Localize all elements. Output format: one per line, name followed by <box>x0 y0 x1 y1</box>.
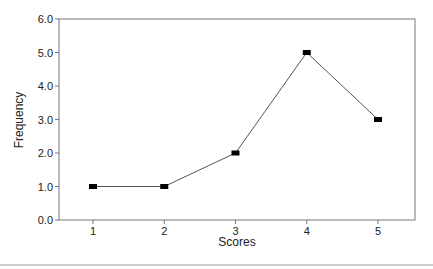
line-chart: 0.01.02.03.04.05.06.0 12345 Scores Frequ… <box>0 0 433 269</box>
x-tick-label: 2 <box>161 225 167 237</box>
y-tick-label: 0.0 <box>38 214 53 226</box>
data-point-marker <box>160 184 168 189</box>
plot-frame <box>59 19 415 220</box>
data-point-marker <box>89 184 97 189</box>
x-tick-label: 1 <box>90 225 96 237</box>
y-tick-label: 6.0 <box>38 13 53 25</box>
y-tick-label: 3.0 <box>38 114 53 126</box>
x-axis-title: Scores <box>218 235 255 249</box>
x-tick-label: 4 <box>304 225 310 237</box>
data-series <box>89 50 382 189</box>
y-tick-label: 4.0 <box>38 80 53 92</box>
y-tick-label: 1.0 <box>38 181 53 193</box>
y-tick-label: 5.0 <box>38 47 53 59</box>
series-line <box>93 53 378 187</box>
x-tick-label: 5 <box>375 225 381 237</box>
y-axis-title: Frequency <box>12 92 26 149</box>
data-point-marker <box>303 50 311 55</box>
y-axis: 0.01.02.03.04.05.06.0 <box>38 13 59 226</box>
y-tick-label: 2.0 <box>38 147 53 159</box>
data-point-marker <box>232 151 240 156</box>
data-point-marker <box>374 117 382 122</box>
